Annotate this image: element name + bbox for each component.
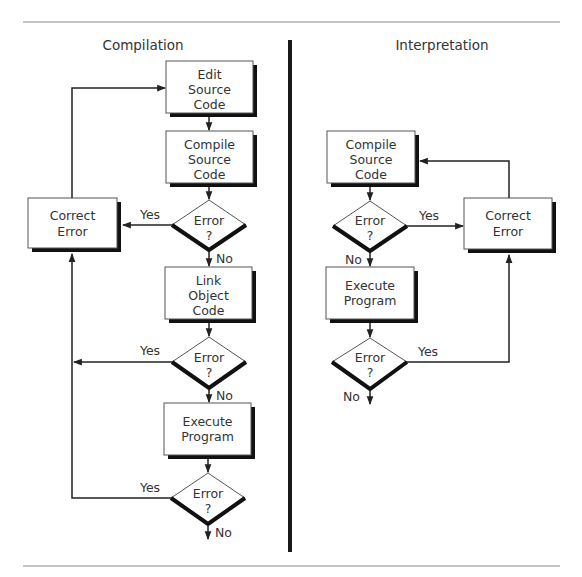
node-text: Program (181, 429, 234, 444)
path-interp-correct-to-compile (420, 161, 509, 198)
node-correct-error-interpretation: Correct Error (464, 198, 556, 253)
node-execute-program: Execute Program (164, 403, 255, 459)
node-text: Correct (485, 208, 531, 223)
decision-text: ? (206, 365, 213, 380)
no-label: No (343, 389, 360, 404)
no-label: No (216, 388, 233, 403)
node-text: Error (57, 224, 88, 239)
decision-text: Error (194, 213, 225, 228)
node-text: Error (493, 224, 524, 239)
node-text: Execute (345, 278, 395, 293)
decision-text: ? (205, 501, 212, 516)
node-text: Correct (50, 208, 96, 223)
yes-label: Yes (418, 208, 439, 223)
node-text: Code (193, 97, 225, 112)
decision-text: Error (355, 350, 386, 365)
no-label: No (345, 252, 362, 267)
node-text: Program (344, 293, 397, 308)
compilation-vs-interpretation-flowchart: Compilation Interpretation Edit Source C… (0, 0, 582, 577)
section-divider (288, 40, 292, 552)
decision-text: Error (355, 213, 386, 228)
node-text: Code (192, 303, 224, 318)
node-text: Object (188, 288, 229, 303)
node-text: Source (188, 82, 231, 97)
interpretation-title: Interpretation (395, 37, 488, 53)
node-text: Compile (184, 137, 235, 152)
decision-compile-error: Error ? (172, 200, 246, 250)
node-text: Code (355, 167, 387, 182)
yes-label: Yes (139, 480, 160, 495)
node-compile-source-code: Compile Source Code (166, 131, 257, 187)
decision-link-error: Error ? (172, 337, 246, 388)
node-text: Source (188, 152, 231, 167)
no-label: No (215, 525, 232, 540)
node-text: Code (193, 167, 225, 182)
decision-text: Error (194, 350, 225, 365)
yes-label: Yes (417, 344, 438, 359)
decision-interp-compile-error: Error ? (333, 201, 407, 251)
node-edit-source-code: Edit Source Code (166, 61, 257, 117)
node-text: Link (196, 273, 222, 288)
node-correct-error-compilation: Correct Error (28, 198, 121, 252)
node-compile-source-code-interp: Compile Source Code (327, 131, 419, 187)
path-correct-to-edit (72, 88, 165, 198)
compilation-title: Compilation (102, 37, 183, 53)
node-text: Execute (183, 414, 233, 429)
yes-label: Yes (139, 343, 160, 358)
no-label: No (216, 251, 233, 266)
decision-text: ? (367, 228, 374, 243)
decision-text: ? (367, 365, 374, 380)
decision-text: Error (193, 486, 224, 501)
node-text: Source (350, 152, 393, 167)
node-link-object-code: Link Object Code (165, 267, 256, 323)
path-decision3-yes (72, 254, 171, 498)
node-execute-program-interp: Execute Program (326, 267, 418, 323)
decision-runtime-error: Error ? (171, 473, 245, 524)
yes-label: Yes (139, 207, 160, 222)
decision-interp-runtime-error: Error ? (332, 338, 407, 389)
node-text: Edit (197, 67, 221, 82)
node-text: Compile (345, 137, 396, 152)
decision-text: ? (206, 228, 213, 243)
